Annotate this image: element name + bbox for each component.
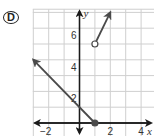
coordinate-graph: xy −224246	[0, 0, 154, 136]
x-tick-label: 2	[108, 126, 114, 136]
x-tick-label: −2	[40, 126, 52, 136]
x-axis-label: x	[146, 125, 152, 136]
y-tick-label: 4	[71, 62, 77, 73]
y-tick-label: 6	[71, 30, 77, 41]
open-circle	[92, 41, 98, 47]
closed-dot	[92, 120, 98, 126]
y-axis-label: y	[83, 7, 89, 19]
x-tick-label: 4	[138, 126, 144, 136]
grid-lines	[33, 9, 154, 136]
axes: xy	[35, 7, 152, 136]
